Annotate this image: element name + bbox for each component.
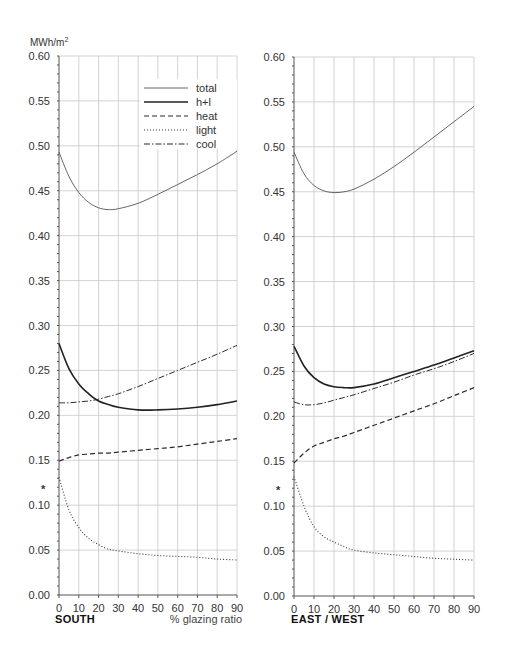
series-line-heat [294,388,474,463]
y-tick-label: 0.05 [264,545,285,557]
y-tick-label: 0.40 [29,230,50,242]
chart-canvas: MWh/m2 01020304050607080900.000.050.100.… [0,0,506,662]
series-line-h-l [59,344,237,411]
y-tick-label: 0.60 [264,51,285,63]
series-line-light [294,477,474,561]
y-tick-label: 0.00 [264,590,285,602]
y-tick-label: 0.50 [29,140,50,152]
legend-background [140,79,237,149]
series-line-total [59,151,237,210]
legend-label: heat [196,110,217,122]
legend-label: light [196,124,216,136]
y-tick-label: 0.20 [264,410,285,422]
x-tick-label: 60 [408,603,420,615]
y-tick-label: 0.20 [29,409,50,421]
legend-label: cool [196,138,216,150]
y-tick-label: 0.35 [29,275,50,287]
y-tick-label: 0.15 [29,454,50,466]
y-tick-label: 0.60 [29,50,50,62]
x-tick-label: 30 [112,602,124,614]
y-tick-label: 0.00 [29,589,50,601]
legend-label: h+l [196,96,211,108]
y-tick-label: 0.05 [29,544,50,556]
x-tick-label: 90 [468,603,480,615]
x-axis-label: % glazing ratio [170,613,242,625]
legend-label: total [196,82,217,94]
chart-legend: totalh+lheatlightcool [140,79,237,150]
y-tick-label: 0.40 [264,231,285,243]
y-tick-label: 0.10 [264,500,285,512]
series-line-light [59,477,237,560]
east-west-chart-panel: 01020304050607080900.000.050.100.150.200… [264,51,481,615]
asterisk-marker-icon: * [41,483,46,495]
x-tick-label: 40 [368,603,380,615]
asterisk-marker-icon: * [276,484,281,496]
y-tick-label: 0.55 [264,96,285,108]
x-tick-label: 80 [448,603,460,615]
y-tick-label: 0.30 [29,320,50,332]
y-tick-label: 0.55 [29,95,50,107]
series-line-cool [59,345,237,403]
y-tick-label: 0.15 [264,455,285,467]
y-tick-label: 0.30 [264,321,285,333]
series-line-heat [59,439,237,461]
x-tick-label: 40 [132,602,144,614]
y-tick-label: 0.50 [264,141,285,153]
y-tick-label: 0.45 [29,185,50,197]
x-tick-label: 50 [152,602,164,614]
y-tick-label: 0.25 [264,365,285,377]
y-axis-unit-label: MWh/m2 [30,36,68,48]
series-line-total [294,106,474,192]
y-tick-label: 0.25 [29,364,50,376]
x-tick-label: 70 [428,603,440,615]
south-panel-label: SOUTH [55,613,95,625]
east-west-panel-label: EAST / WEST [291,613,365,625]
y-tick-label: 0.10 [29,499,50,511]
y-tick-label: 0.45 [264,186,285,198]
y-tick-label: 0.35 [264,276,285,288]
series-line-h-l [294,346,474,388]
x-tick-label: 50 [388,603,400,615]
